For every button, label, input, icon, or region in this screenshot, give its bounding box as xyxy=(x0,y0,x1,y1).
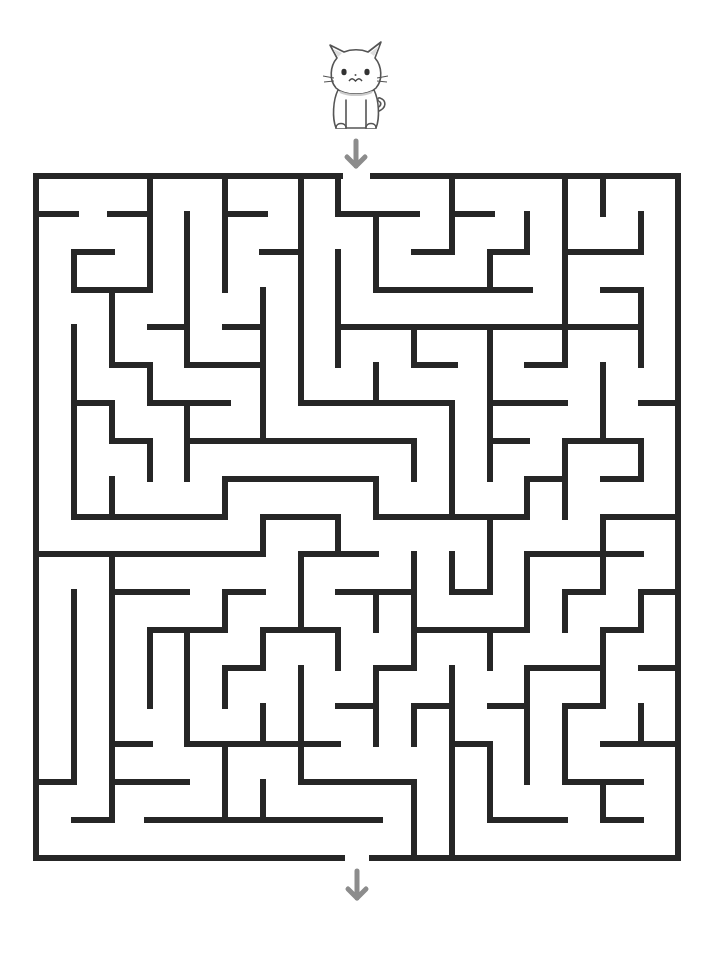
cat-icon xyxy=(323,42,388,128)
maze-canvas xyxy=(0,0,721,968)
maze-entrance[interactable] xyxy=(340,166,373,186)
start-arrow-icon xyxy=(347,141,365,166)
maze-exit[interactable] xyxy=(342,848,372,868)
exit-arrow-icon xyxy=(348,871,366,898)
maze-walls xyxy=(36,176,678,858)
